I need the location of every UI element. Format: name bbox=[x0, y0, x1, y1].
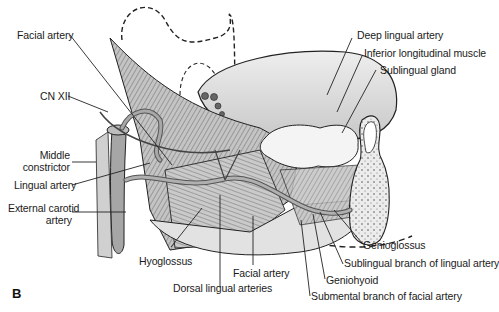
label-lingual-artery: Lingual artery bbox=[14, 179, 76, 191]
middle-constrictor-shape bbox=[96, 132, 112, 258]
label-dorsal-lingual-arteries: Dorsal lingual arteries bbox=[173, 282, 272, 294]
label-cn-xii: CN XII bbox=[40, 90, 70, 102]
label-facial-artery-top: Facial artery bbox=[17, 29, 73, 41]
label-submental-branch: Submental branch of facial artery bbox=[311, 290, 462, 302]
label-deep-lingual-artery: Deep lingual artery bbox=[357, 29, 443, 41]
label-sublingual-gland: Sublingual gland bbox=[380, 64, 456, 76]
label-external-carotid-line1: External carotid bbox=[8, 202, 72, 214]
label-geniohyoid: Geniohyoid bbox=[326, 274, 378, 286]
panel-label: B bbox=[12, 286, 21, 301]
external-carotid-artery-shape bbox=[111, 130, 127, 254]
label-inferior-longitudinal-muscle: Inferior longitudinal muscle bbox=[364, 47, 486, 59]
label-genioglossus: Genioglossus bbox=[363, 239, 425, 251]
label-facial-artery-bottom: Facial artery bbox=[233, 267, 289, 279]
label-middle-constrictor-line2: constrictor bbox=[10, 161, 70, 173]
label-hyoglossus: Hyoglossus bbox=[139, 255, 192, 267]
label-middle-constrictor-line1: Middle bbox=[28, 149, 70, 161]
label-sublingual-branch: Sublingual branch of lingual artery bbox=[344, 257, 499, 269]
label-external-carotid-line2: artery bbox=[30, 214, 72, 226]
